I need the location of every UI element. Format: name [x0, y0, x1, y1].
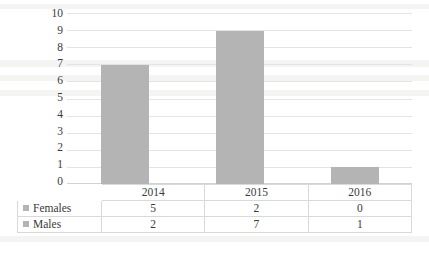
- y-tick-label: 2: [37, 142, 63, 154]
- cell-males-2015: 7: [205, 217, 308, 233]
- column-header-2016: 2016: [308, 185, 411, 201]
- y-tick-label: 6: [37, 75, 63, 87]
- cell-males-2014: 2: [102, 217, 205, 233]
- y-axis-labels: 10 9 8 7 6 5 4 3 2 1 0: [33, 13, 63, 184]
- y-tick-label: 8: [37, 42, 63, 54]
- cell-females-2015: 2: [205, 201, 308, 217]
- chart-data-table: 2014 2015 2016 Females 5 2 0 Males 2 7 1: [17, 184, 412, 233]
- scan-artifact: [0, 4, 429, 9]
- y-tick-label: 5: [37, 92, 63, 104]
- table-corner-cell: [18, 185, 102, 201]
- y-tick-label: 7: [37, 58, 63, 70]
- y-tick-label: 9: [37, 25, 63, 37]
- plot-area: [67, 13, 412, 184]
- series-label-text: Males: [33, 218, 61, 230]
- y-tick-label: 4: [37, 109, 63, 121]
- bar-2016: [331, 167, 379, 184]
- bar-2014: [101, 65, 149, 184]
- scan-artifact: [0, 236, 429, 242]
- table-row: Females 5 2 0: [18, 201, 412, 217]
- bar-chart-with-data-table: 10 9 8 7 6 5 4 3 2 1 0 2014 2: [0, 0, 429, 253]
- cell-females-2014: 5: [102, 201, 205, 217]
- column-header-2015: 2015: [205, 185, 308, 201]
- series-label-males: Males: [18, 217, 102, 233]
- legend-swatch-icon: [23, 221, 29, 227]
- bar-series: [67, 13, 412, 184]
- y-tick-label: 3: [37, 126, 63, 138]
- series-label-females: Females: [18, 201, 102, 217]
- series-label-text: Females: [33, 202, 71, 214]
- legend-swatch-icon: [23, 205, 29, 211]
- cell-females-2016: 0: [308, 201, 411, 217]
- column-header-2014: 2014: [102, 185, 205, 201]
- bar-2015: [216, 31, 264, 184]
- table-row-header: 2014 2015 2016: [18, 185, 412, 201]
- cell-males-2016: 1: [308, 217, 411, 233]
- y-tick-label: 1: [37, 159, 63, 171]
- table-row: Males 2 7 1: [18, 217, 412, 233]
- y-tick-label: 10: [37, 8, 63, 20]
